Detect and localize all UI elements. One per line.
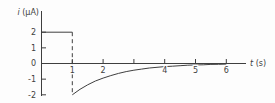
x-tick-label: 4	[162, 66, 167, 75]
y-tick-label: -1	[28, 75, 36, 84]
x-axis-label: t (s)	[250, 59, 266, 68]
series-exponential-recovery	[72, 64, 226, 95]
y-tick-label: 1	[31, 44, 36, 53]
current-vs-time-chart: 12456210-1-2 i (μA) t (s)	[0, 0, 275, 103]
x-tick-label: 5	[193, 66, 198, 75]
x-tick-label: 2	[101, 66, 106, 75]
y-tick-label: 2	[31, 28, 36, 37]
x-tick-label: 1	[70, 66, 75, 75]
y-tick-label: 0	[31, 59, 36, 68]
x-axis-unit: (s)	[253, 59, 266, 68]
y-axis-unit: (μA)	[20, 8, 39, 17]
y-axis-label: i (μA)	[6, 8, 39, 17]
plot-canvas: 12456210-1-2	[0, 0, 275, 103]
y-tick-label: -2	[28, 91, 36, 100]
x-tick-label: 6	[224, 66, 229, 75]
